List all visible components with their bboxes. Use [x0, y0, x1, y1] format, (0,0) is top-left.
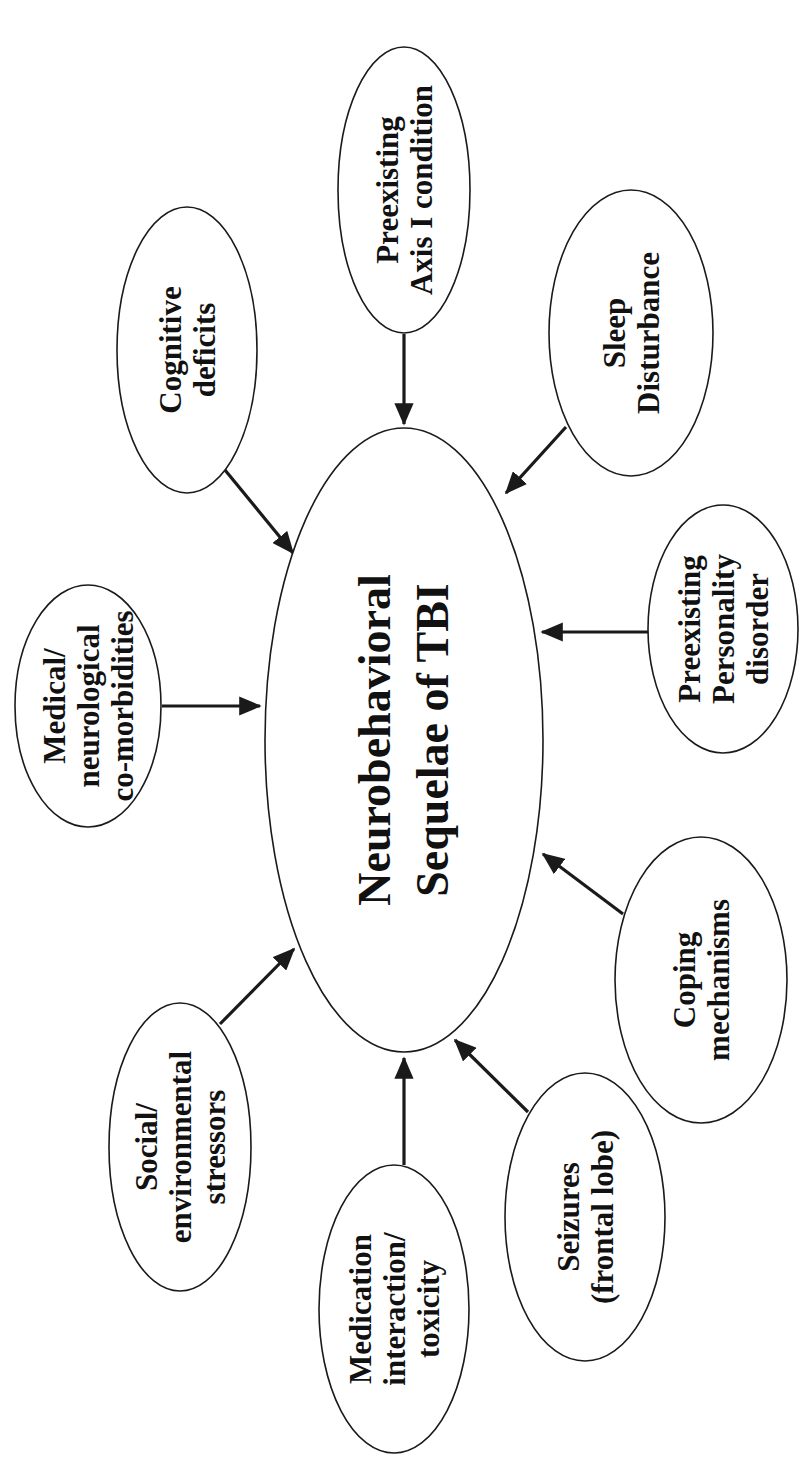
preexisting-axis-i-line-1: Preexisting [370, 116, 405, 264]
center-label-line-2: Sequelae of TBI [407, 583, 458, 897]
preexisting-personality-line-3: disorder [740, 573, 775, 685]
center-label-line-1: Neurobehavioral [349, 574, 400, 905]
coping-mechanisms-line-1: Coping [667, 931, 702, 1028]
center-node: Neurobehavioral Sequelae of TBI [265, 428, 543, 1052]
preexisting-personality-line-2: Personality [706, 554, 741, 704]
node-coping-mechanisms: Coping mechanisms [615, 837, 787, 1123]
social-environmental-line-1: Social/ [129, 1103, 164, 1191]
arrow-sleep-to-center [506, 427, 566, 493]
coping-mechanisms-line-2: mechanisms [701, 899, 736, 1061]
sleep-disturbance-line-1: Sleep [597, 298, 632, 369]
node-cognitive-deficits: Cognitive deficits [117, 207, 257, 493]
sleep-disturbance-line-2: Disturbance [631, 252, 666, 414]
arrow-coping-to-center [543, 854, 623, 914]
node-preexisting-personality: Preexisting Personality disorder [648, 505, 798, 753]
center-ellipse [265, 428, 543, 1052]
arrow-social-to-center [220, 949, 294, 1024]
node-sleep-disturbance: Sleep Disturbance [549, 190, 713, 476]
seizures-line-1: Seizures [551, 1162, 586, 1272]
arrow-seizures-to-center [455, 1040, 528, 1112]
medical-neurological-line-3: co-morbidities [105, 610, 140, 801]
node-seizures: Seizures (frontal lobe) [505, 1073, 665, 1361]
preexisting-personality-line-1: Preexisting [672, 555, 707, 703]
medication-interaction-line-3: toxicity [411, 1259, 446, 1358]
social-environmental-line-3: stressors [197, 1090, 232, 1205]
medical-neurological-line-2: neurological [71, 624, 106, 787]
node-medication-interaction: Medication interaction/ toxicity [319, 1165, 469, 1453]
cognitive-deficits-line-1: Cognitive [153, 286, 188, 413]
node-medical-neurological: Medical/ neurological co-morbidities [15, 585, 161, 827]
cognitive-deficits-line-2: deficits [187, 303, 222, 398]
diagram-canvas: Neurobehavioral Sequelae of TBI Cognitiv… [0, 0, 809, 1482]
node-preexisting-axis-i: Preexisting Axis I condition [338, 47, 470, 333]
seizures-line-2: (frontal lobe) [585, 1130, 620, 1304]
medical-neurological-line-1: Medical/ [37, 648, 72, 764]
preexisting-axis-i-line-2: Axis I condition [404, 85, 439, 295]
arrow-cognitive-to-center [225, 470, 293, 553]
medication-interaction-line-1: Medication [343, 1234, 378, 1384]
medication-interaction-line-2: interaction/ [377, 1232, 412, 1386]
node-social-environmental: Social/ environmental stressors [109, 1003, 251, 1291]
social-environmental-line-2: environmental [163, 1050, 198, 1243]
